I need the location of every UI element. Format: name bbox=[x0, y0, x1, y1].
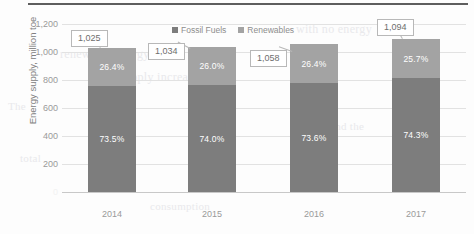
bar-segment-renewables[interactable]: 26.0% bbox=[188, 47, 236, 85]
x-tick-2014: 2014 bbox=[67, 209, 157, 219]
bar-segment-fossil-fuels[interactable]: 74.3% bbox=[392, 78, 440, 192]
y-tick-200: 200 bbox=[14, 159, 58, 169]
y-tick-0: 0 bbox=[14, 187, 58, 197]
bar-label-renewables: 26.4% bbox=[301, 59, 326, 69]
bar-label-fossil-fuels: 73.6% bbox=[301, 133, 326, 143]
bar-label-renewables: 25.7% bbox=[403, 54, 428, 64]
bar-segment-renewables[interactable]: 26.4% bbox=[290, 44, 338, 83]
legend: Fossil Fuels Renewables bbox=[172, 25, 294, 35]
bar-segment-fossil-fuels[interactable]: 73.6% bbox=[290, 83, 338, 192]
bar-2015[interactable]: 26.0% 74.0% bbox=[188, 47, 236, 192]
legend-item-fossil-fuels[interactable]: Fossil Fuels bbox=[172, 25, 226, 35]
y-tick-800: 800 bbox=[14, 75, 58, 85]
callout-total-2016: 1,058 bbox=[250, 50, 287, 67]
legend-item-renewables[interactable]: Renewables bbox=[238, 25, 294, 35]
callout-total-2014: 1,025 bbox=[71, 30, 108, 47]
legend-swatch-icon bbox=[238, 27, 244, 33]
bar-segment-renewables[interactable]: 25.7% bbox=[392, 39, 440, 78]
axis-baseline bbox=[62, 192, 466, 193]
bar-label-renewables: 26.0% bbox=[199, 61, 224, 71]
bar-2014[interactable]: 26.4% 73.5% bbox=[88, 48, 136, 192]
bar-label-fossil-fuels: 74.0% bbox=[199, 134, 224, 144]
bar-label-fossil-fuels: 74.3% bbox=[403, 130, 428, 140]
stacked-bar-chart: Energy supply, million toe 1,200 1,000 8… bbox=[0, 0, 474, 234]
bar-label-fossil-fuels: 73.5% bbox=[99, 134, 124, 144]
y-tick-400: 400 bbox=[14, 131, 58, 141]
bar-segment-fossil-fuels[interactable]: 74.0% bbox=[188, 85, 236, 192]
y-tick-1200: 1,200 bbox=[14, 19, 58, 29]
bar-2016[interactable]: 26.4% 73.6% bbox=[290, 44, 338, 192]
bar-segment-fossil-fuels[interactable]: 73.5% bbox=[88, 86, 136, 192]
x-tick-2017: 2017 bbox=[371, 209, 461, 219]
y-tick-600: 600 bbox=[14, 103, 58, 113]
bar-label-renewables: 26.4% bbox=[99, 62, 124, 72]
y-tick-1000: 1,000 bbox=[14, 47, 58, 57]
legend-swatch-icon bbox=[172, 27, 178, 33]
legend-label-fossil-fuels: Fossil Fuels bbox=[181, 25, 226, 35]
bar-2017[interactable]: 25.7% 74.3% bbox=[392, 39, 440, 192]
legend-label-renewables: Renewables bbox=[247, 25, 294, 35]
callout-total-2017: 1,094 bbox=[377, 19, 414, 36]
bar-segment-renewables[interactable]: 26.4% bbox=[88, 48, 136, 86]
callout-total-2015: 1,034 bbox=[148, 43, 185, 60]
x-tick-2016: 2016 bbox=[269, 209, 359, 219]
x-tick-2015: 2015 bbox=[167, 209, 257, 219]
